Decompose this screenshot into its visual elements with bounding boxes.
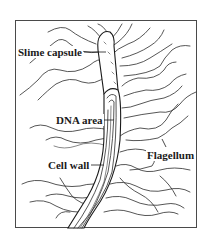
- bacterium-diagram: Slime capsule DNA area Cell wall Flagell…: [0, 0, 208, 240]
- bacterium-illustration: [0, 0, 208, 240]
- label-dna-area: DNA area: [55, 114, 104, 126]
- flagellum-leader: [162, 139, 166, 147]
- label-flagellum: Flagellum: [146, 149, 195, 161]
- label-cell-wall: Cell wall: [47, 159, 90, 171]
- label-slime-capsule: Slime capsule: [17, 46, 83, 58]
- slime-capsule-shape: [98, 32, 118, 95]
